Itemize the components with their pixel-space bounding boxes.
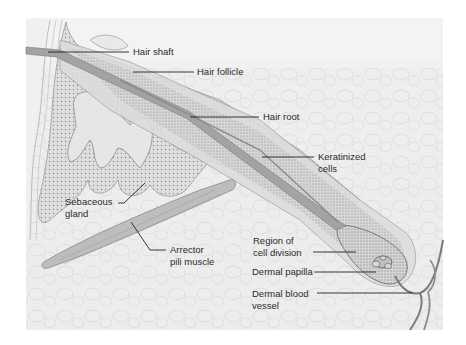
- label-dermal-papilla: Dermal papilla: [252, 266, 313, 278]
- label-region-cell-division: Region of cell division: [253, 235, 302, 258]
- label-dermal-blood-vessel: Dermal blood vessel: [252, 288, 309, 311]
- illustration: [0, 0, 466, 345]
- label-hair-follicle: Hair follicle: [197, 66, 243, 78]
- label-keratinized-cells: Keratinized cells: [318, 151, 366, 174]
- hair-follicle-diagram: Hair shaft Hair follicle Hair root Kerat…: [0, 0, 466, 345]
- label-hair-root: Hair root: [263, 111, 299, 123]
- label-sebaceous-gland: Sebaceous gland: [65, 196, 113, 219]
- label-arrector-pili-muscle: Arrector pili muscle: [170, 244, 214, 267]
- label-hair-shaft: Hair shaft: [133, 46, 174, 58]
